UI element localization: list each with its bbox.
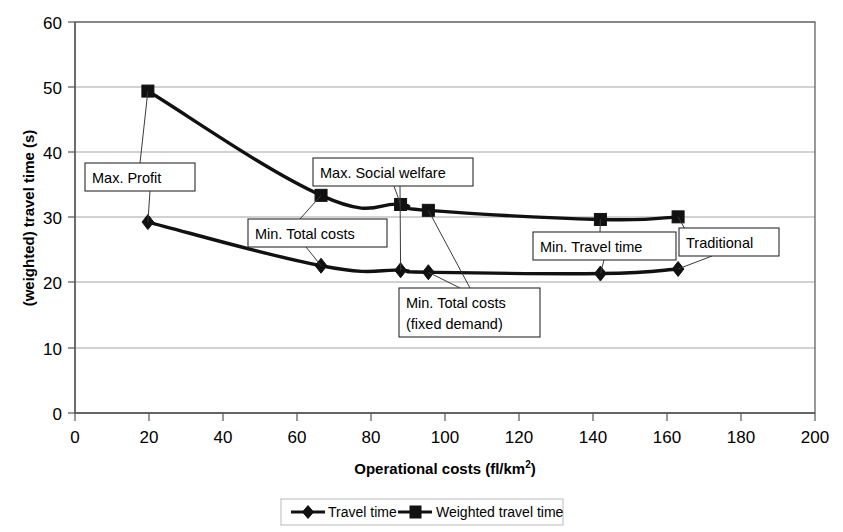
annotation-min-total-costs[interactable]: Min. Total costs xyxy=(248,219,387,247)
x-tick-label-200: 200 xyxy=(801,428,829,447)
plot-area-background xyxy=(75,22,815,413)
y-tick-label-40: 40 xyxy=(43,144,62,163)
annotation-label: Min. Total costs xyxy=(406,295,506,311)
annotation-min-travel-time[interactable]: Min. Travel time xyxy=(533,232,676,260)
leader-line-max-social-welfare xyxy=(400,186,401,270)
x-tick-label-140: 140 xyxy=(579,428,607,447)
annotation-label: Min. Travel time xyxy=(540,239,642,255)
legend-item-travel-time[interactable]: Travel time xyxy=(291,504,397,520)
y-tick-label-10: 10 xyxy=(43,340,62,359)
x-tick-label-100: 100 xyxy=(431,428,459,447)
x-tick-label-40: 40 xyxy=(214,428,233,447)
chart-canvas: 60 50 40 30 20 10 0 0 20 40 60 8 xyxy=(0,0,843,532)
annotation-traditional[interactable]: Traditional xyxy=(679,228,779,256)
y-tick-label-50: 50 xyxy=(43,79,62,98)
annotation-label: Max. Social welfare xyxy=(320,165,446,181)
x-tick-label-120: 120 xyxy=(505,428,533,447)
x-tick-label-0: 0 xyxy=(70,428,79,447)
annotation-label: Min. Total costs xyxy=(255,226,355,242)
square-marker-icon xyxy=(410,506,421,518)
legend: Travel time Weighted travel time xyxy=(281,499,564,525)
y-axis-title: (weighted) travel time (s) xyxy=(20,130,37,307)
x-tick-label-60: 60 xyxy=(288,428,307,447)
x-axis-title-tail: ) xyxy=(531,460,536,477)
x-axis: 0 20 40 60 80 100 120 140 160 180 200 xyxy=(70,413,829,447)
y-tick-label-60: 60 xyxy=(43,14,62,33)
chart-figure: 60 50 40 30 20 10 0 0 20 40 60 8 xyxy=(0,0,843,532)
x-axis-title: Operational costs (fl/km2) xyxy=(354,459,535,477)
annotation-max-social-welfare[interactable]: Max. Social welfare xyxy=(313,158,473,186)
y-tick-label-30: 30 xyxy=(43,209,62,228)
legend-label-weighted-travel-time: Weighted travel time xyxy=(436,504,564,520)
y-axis: 60 50 40 30 20 10 0 xyxy=(43,14,75,424)
annotation-label: Max. Profit xyxy=(92,170,161,186)
x-tick-label-180: 180 xyxy=(727,428,755,447)
legend-label-travel-time: Travel time xyxy=(328,504,397,520)
x-tick-label-80: 80 xyxy=(362,428,381,447)
y-tick-label-20: 20 xyxy=(43,274,62,293)
x-tick-label-160: 160 xyxy=(653,428,681,447)
y-tick-label-0: 0 xyxy=(53,405,62,424)
x-axis-title-base: Operational costs (fl/km xyxy=(354,460,525,477)
x-tick-label-20: 20 xyxy=(140,428,159,447)
annotation-min-total-costs-fixed-demand[interactable]: Min. Total costs(fixed demand) xyxy=(399,288,540,337)
annotation-label: Traditional xyxy=(686,235,753,251)
annotation-label: (fixed demand) xyxy=(406,316,503,332)
annotation-max-profit[interactable]: Max. Profit xyxy=(85,163,195,191)
